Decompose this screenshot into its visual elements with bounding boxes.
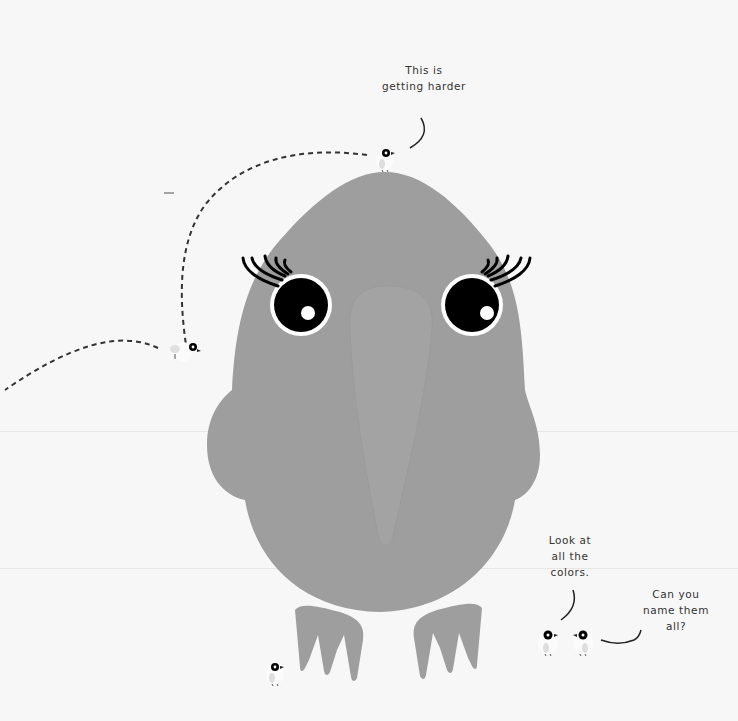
- dashed-flight-path-lower: [5, 341, 158, 390]
- speech-pointer-name: [601, 630, 641, 643]
- speech-pointer-top: [410, 118, 424, 148]
- small-bird-top: [376, 149, 395, 172]
- small-bird-ground: [266, 663, 284, 686]
- speech-pointer-look: [561, 590, 574, 620]
- caption-look-at-colors: Look at all the colors.: [540, 532, 600, 580]
- small-bird-pair-left: [538, 631, 558, 657]
- small-bird-pair-right: [573, 631, 593, 657]
- big-bird-right-foot: [414, 604, 482, 679]
- illustration-page: This is getting harder Look at all the c…: [0, 0, 738, 721]
- big-bird: [207, 172, 540, 681]
- caption-name-them: Can you name them all?: [638, 586, 714, 634]
- small-bird-flying: [170, 342, 201, 362]
- caption-getting-harder: This is getting harder: [376, 62, 472, 94]
- big-bird-left-foot: [295, 606, 363, 681]
- scene-artwork: [0, 0, 738, 721]
